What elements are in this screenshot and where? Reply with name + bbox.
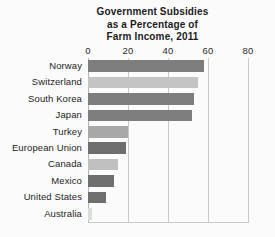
category-label: European Union <box>0 140 82 156</box>
chart-title-line-1: Government Subsidies <box>60 6 245 19</box>
x-tick-label: 20 <box>123 45 134 56</box>
bar-canada <box>88 159 118 171</box>
bar-row: United States <box>0 189 275 205</box>
x-tick-label: 80 <box>243 45 254 56</box>
bar-switzerland <box>88 77 198 89</box>
category-label: United States <box>0 189 82 205</box>
bar-row: Turkey <box>0 124 275 140</box>
bar-row: Mexico <box>0 173 275 189</box>
category-label: South Korea <box>0 91 82 107</box>
bar-chart-figure: Government Subsidies as a Percentage of … <box>0 0 275 237</box>
bar-rows: NorwaySwitzerlandSouth KoreaJapanTurkeyE… <box>0 58 275 222</box>
chart-title-line-2: as a Percentage of <box>60 19 245 32</box>
x-tick-label: 0 <box>85 45 90 56</box>
category-label: Norway <box>0 58 82 74</box>
bar-row: Canada <box>0 156 275 172</box>
category-label: Australia <box>0 206 82 222</box>
bar-row: Switzerland <box>0 74 275 90</box>
bar-japan <box>88 110 192 122</box>
bar-turkey <box>88 126 128 138</box>
category-label: Canada <box>0 156 82 172</box>
x-tick-label: 40 <box>163 45 174 56</box>
category-label: Japan <box>0 107 82 123</box>
category-label: Turkey <box>0 124 82 140</box>
bar-row: Norway <box>0 58 275 74</box>
x-tick-label: 60 <box>203 45 214 56</box>
bar-united-states <box>88 192 106 204</box>
category-label: Mexico <box>0 173 82 189</box>
chart-title: Government Subsidies as a Percentage of … <box>60 6 245 44</box>
bar-mexico <box>88 175 114 187</box>
category-label: Switzerland <box>0 74 82 90</box>
bar-row: Australia <box>0 206 275 222</box>
bar-row: Japan <box>0 107 275 123</box>
bar-row: European Union <box>0 140 275 156</box>
bar-row: South Korea <box>0 91 275 107</box>
bar-australia <box>88 208 92 220</box>
plot-frame-bottom <box>88 222 249 223</box>
bar-south-korea <box>88 93 194 105</box>
bar-norway <box>88 60 204 72</box>
x-axis-tick-labels: 020406080 <box>0 45 275 58</box>
chart-title-line-3: Farm Income, 2011 <box>60 31 245 44</box>
bar-european-union <box>88 142 126 154</box>
